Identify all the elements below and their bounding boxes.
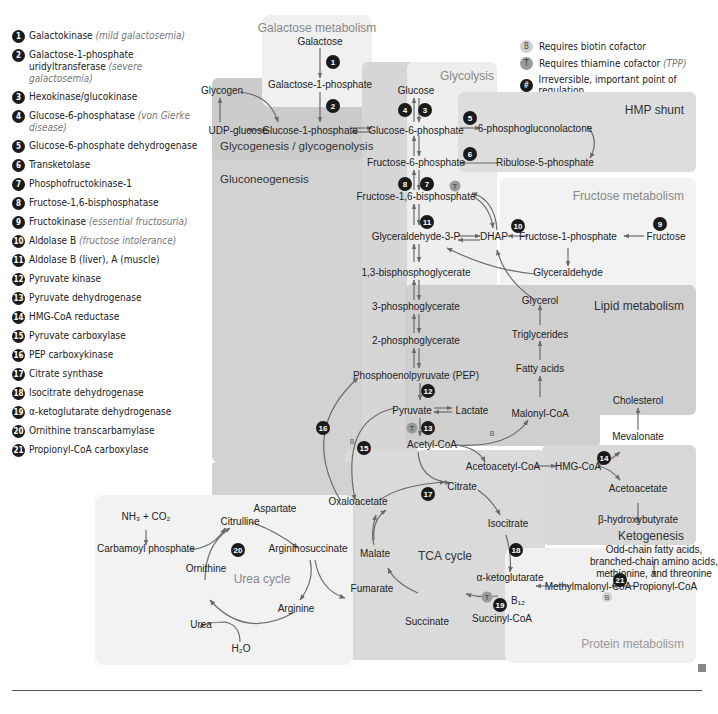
- node-malate: Malate: [360, 548, 390, 559]
- node-mevalonate: Mevalonate: [612, 431, 664, 442]
- enzyme-badge-number: 12: [424, 387, 433, 396]
- node-citrulline: Citrulline: [221, 516, 260, 527]
- node-tg: Triglycerides: [512, 329, 568, 340]
- node-f1p: Fructose-1-phosphate: [519, 231, 617, 242]
- node-argsucc: Argininosuccinate: [269, 543, 348, 554]
- node-acetoacetate: Acetoacetate: [609, 483, 668, 494]
- region-title-glycogen: Glycogenesis / glycogenolysis: [220, 140, 374, 152]
- node-bpg: 1,3-bisphosphoglycerate: [362, 267, 471, 278]
- enzyme-badge-number: 4: [403, 106, 408, 115]
- node-galactose: Galactose: [297, 36, 342, 47]
- region-title-glycolysis: Glycolysis: [440, 69, 494, 83]
- region-title-hmp: HMP shunt: [625, 103, 685, 117]
- logo-icon: [698, 664, 706, 672]
- enzyme-badge-number: 5: [468, 114, 473, 123]
- node-oddchain-1: Odd-chain fatty acids,: [606, 544, 703, 555]
- enzyme-badge-number: 6: [468, 150, 473, 159]
- enzyme-badge-number: 14: [600, 454, 609, 463]
- cofactor-label: T: [485, 594, 490, 601]
- enzyme-badge-number: 18: [512, 546, 521, 555]
- region-title-tca: TCA cycle: [418, 549, 472, 563]
- enzyme-badge-number: 8: [403, 180, 408, 189]
- node-pgl: 6-phosphogluconolactone: [478, 123, 593, 134]
- enzyme-badge-number: 21: [616, 576, 625, 585]
- node-udpglucose: UDP-glucose: [209, 125, 268, 136]
- biotin-label: B: [605, 594, 610, 601]
- node-h2o: H₂O: [232, 643, 251, 654]
- enzyme-badge-number: 13: [424, 424, 433, 433]
- cofactor-label: T: [453, 183, 458, 190]
- node-cholesterol: Cholesterol: [613, 395, 664, 406]
- node-glyceraldehyde: Glyceraldehyde: [533, 267, 603, 278]
- node-glucose: Glucose: [398, 85, 435, 96]
- node-acetoacetylcoa: Acetoacetyl-CoA: [466, 461, 541, 472]
- pathway-diagram: Galactose metabolism Glycolysis HMP shun…: [0, 0, 718, 714]
- enzyme-badge-number: 7: [425, 180, 430, 189]
- enzyme-badge-number: 20: [234, 546, 243, 555]
- node-fa: Fatty acids: [516, 363, 564, 374]
- node-glc1p: Glucose-1-phosphate: [262, 125, 358, 136]
- enzyme-badge-number: 9: [658, 220, 663, 229]
- node-citrate: Citrate: [447, 481, 477, 492]
- node-dhap: DHAP: [480, 231, 508, 242]
- node-pep: Phosphoenolpyruvate (PEP): [353, 370, 479, 381]
- node-malonyl: Malonyl-CoA: [511, 408, 569, 419]
- biotin-label: B: [490, 430, 495, 437]
- region-title-gluconeogenesis: Gluconeogenesis: [220, 173, 309, 185]
- region-title-urea: Urea cycle: [234, 572, 291, 586]
- region-title-protein: Protein metabolism: [581, 637, 684, 651]
- node-b12: B₁₂: [511, 595, 525, 606]
- node-nh3co2: NH₃ + CO₂: [122, 511, 171, 522]
- enzyme-badge-number: 15: [360, 444, 369, 453]
- node-f6p: Fructose-6-phosphate: [367, 157, 465, 168]
- region-tca-left: [212, 462, 352, 497]
- node-propionyl: Propionyl-CoA: [633, 581, 698, 592]
- node-ru5p: Ribulose-5-phosphate: [496, 157, 594, 168]
- node-bhb: β-hydroxybutyrate: [598, 514, 679, 525]
- footer-divider: [12, 690, 702, 691]
- enzyme-badge-number: 11: [423, 218, 432, 227]
- enzyme-badge-number: 10: [514, 222, 523, 231]
- enzyme-badge-number: 16: [319, 424, 328, 433]
- enzyme-badge-number: 2: [331, 102, 336, 111]
- region-title-ketogenesis: Ketogenesis: [618, 529, 684, 543]
- node-g3p: Glyceraldehyde-3-P: [372, 231, 461, 242]
- node-ornithine: Ornithine: [186, 563, 227, 574]
- enzyme-badge-number: 19: [496, 601, 505, 610]
- enzyme-badge-number: 17: [424, 490, 433, 499]
- node-carbamoyl: Carbamoyl phosphate: [97, 543, 195, 554]
- cofactor-label: T: [410, 425, 415, 432]
- node-f16bp: Fructose-1,6-bisphosphate: [357, 191, 476, 202]
- node-gal1p: Galactose-1-phosphate: [268, 79, 372, 90]
- node-akg: α-ketoglutarate: [477, 572, 544, 583]
- enzyme-badge-number: 3: [423, 106, 428, 115]
- node-pg3: 3-phosphoglycerate: [372, 301, 460, 312]
- enzyme-badge-number: 1: [331, 58, 336, 67]
- node-urea: Urea: [190, 619, 212, 630]
- node-g6p: Glucose-6-phosphate: [368, 125, 464, 136]
- node-pg2: 2-phosphoglycerate: [372, 335, 460, 346]
- node-oddchain-2: branched-chain amino acids,: [590, 556, 718, 567]
- region-title-fructose: Fructose metabolism: [573, 189, 684, 203]
- node-pyruvate: Pyruvate: [392, 405, 432, 416]
- node-glycerol: Glycerol: [522, 295, 559, 306]
- node-acetylcoa: Acetyl-CoA: [407, 439, 457, 450]
- region-title-galactose: Galactose metabolism: [258, 21, 377, 35]
- node-hmgcoa: HMG-CoA: [555, 461, 601, 472]
- node-fumarate: Fumarate: [351, 583, 394, 594]
- node-glycogen: Glycogen: [201, 85, 243, 96]
- node-lactate: Lactate: [456, 405, 489, 416]
- node-arginine: Arginine: [278, 603, 315, 614]
- region-title-lipid: Lipid metabolism: [594, 299, 684, 313]
- node-aspartate: Aspartate: [254, 503, 297, 514]
- biotin-label: B: [350, 438, 355, 445]
- node-fructose: Fructose: [647, 231, 686, 242]
- node-succinate: Succinate: [405, 616, 449, 627]
- node-oaa: Oxaloacetate: [329, 496, 388, 507]
- node-isocitrate: Isocitrate: [488, 518, 529, 529]
- node-succoa: Succinyl-CoA: [472, 613, 532, 624]
